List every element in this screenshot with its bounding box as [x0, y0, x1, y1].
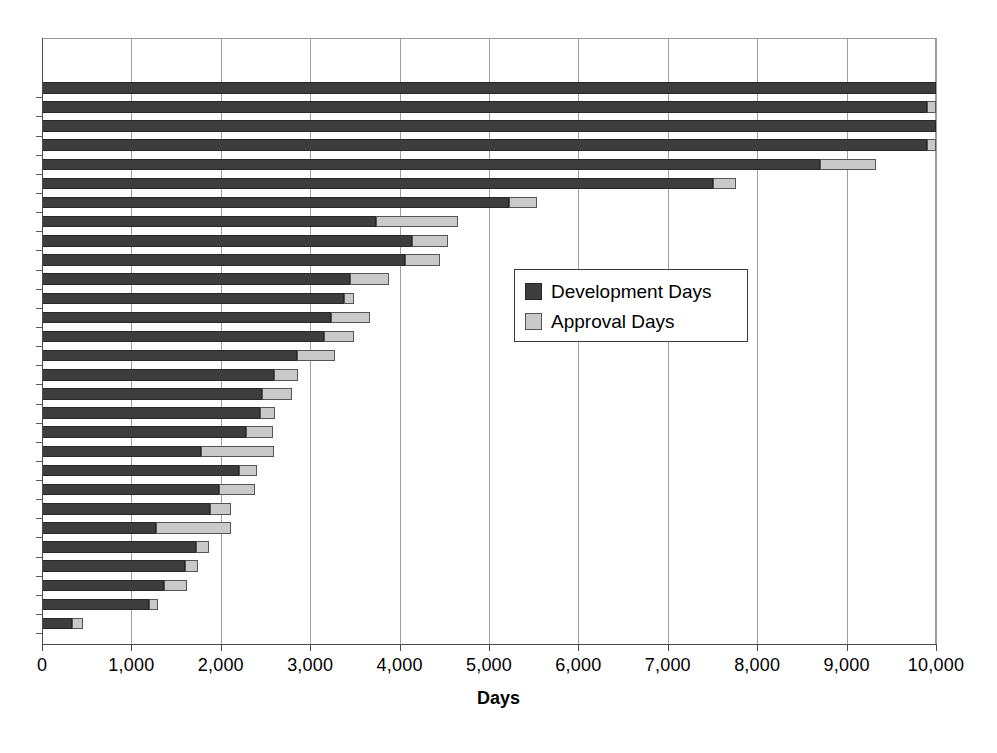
- bar-row: [42, 446, 274, 458]
- bar-segment-development-days: [42, 159, 820, 171]
- bar-segment-development-days: [42, 273, 350, 285]
- light-square-icon: [525, 313, 542, 330]
- bar-segment-development-days: [42, 484, 219, 496]
- bar-segment-approval-days: [196, 541, 209, 553]
- x-axis-tick-label: 1,000: [108, 655, 154, 676]
- bar-row: [42, 254, 440, 266]
- bar-segment-development-days: [42, 82, 936, 94]
- bar-segment-approval-days: [344, 293, 354, 305]
- bar-segment-development-days: [42, 293, 344, 305]
- bar-segment-development-days: [42, 101, 927, 113]
- bar-segment-development-days: [42, 331, 324, 343]
- bar-segment-development-days: [42, 197, 509, 209]
- x-axis-tick: [489, 644, 490, 651]
- x-axis-tick: [847, 644, 848, 651]
- bar-row: [42, 273, 389, 285]
- x-axis-title: Days: [0, 688, 997, 709]
- bar-segment-approval-days: [412, 235, 448, 247]
- bar-segment-development-days: [42, 560, 185, 572]
- bar-row: [42, 178, 736, 190]
- bar-row: [42, 235, 448, 247]
- bar-segment-development-days: [42, 503, 210, 515]
- bar-segment-approval-days: [927, 139, 936, 151]
- x-axis-tick-label: 7,000: [645, 655, 691, 676]
- bar-segment-development-days: [42, 580, 164, 592]
- x-axis-tick-label: 8,000: [734, 655, 780, 676]
- x-axis-tick-label: 3,000: [287, 655, 333, 676]
- bar-row: [42, 331, 354, 343]
- x-axis-tick-label: 6,000: [555, 655, 601, 676]
- bar-row: [42, 197, 537, 209]
- bar-segment-development-days: [42, 388, 262, 400]
- legend-label-approval-days: Approval Days: [551, 312, 675, 331]
- bar-row: [42, 82, 936, 94]
- bar-segment-development-days: [42, 216, 376, 228]
- bar-segment-approval-days: [274, 369, 297, 381]
- bar-segment-approval-days: [149, 599, 158, 611]
- x-axis-tick: [578, 644, 579, 651]
- x-axis-tick: [221, 644, 222, 651]
- legend-label-development-days: Development Days: [551, 282, 712, 301]
- bar-row: [42, 484, 255, 496]
- gridline: [936, 38, 937, 644]
- bar-segment-development-days: [42, 618, 72, 630]
- bar-segment-approval-days: [156, 522, 231, 534]
- bar-row: [42, 522, 231, 534]
- bar-segment-approval-days: [260, 407, 275, 419]
- bar-row: [42, 407, 275, 419]
- bar-segment-approval-days: [331, 312, 370, 324]
- bar-row: [42, 618, 83, 630]
- legend-item-approval-days: Approval Days: [525, 306, 739, 336]
- bar-segment-approval-days: [262, 388, 292, 400]
- bar-row: [42, 159, 876, 171]
- bar-segment-development-days: [42, 407, 260, 419]
- bar-segment-development-days: [42, 139, 927, 151]
- bar-row: [42, 369, 298, 381]
- bar-row: [42, 312, 370, 324]
- x-axis-tick-label: 0: [37, 655, 47, 676]
- bar-segment-development-days: [42, 599, 149, 611]
- bar-segment-development-days: [42, 120, 936, 132]
- bar-segment-development-days: [42, 178, 713, 190]
- bar-row: [42, 503, 231, 515]
- bar-segment-development-days: [42, 541, 196, 553]
- x-axis-tick: [936, 644, 937, 651]
- bar-segment-approval-days: [324, 331, 354, 343]
- bar-segment-approval-days: [350, 273, 389, 285]
- bar-row: [42, 350, 335, 362]
- bar-segment-approval-days: [820, 159, 876, 171]
- x-axis-tick: [131, 644, 132, 651]
- bar-row: [42, 465, 257, 477]
- bar-row: [42, 101, 936, 113]
- legend-item-development-days: Development Days: [525, 276, 739, 306]
- bar-segment-approval-days: [164, 580, 186, 592]
- bar-row: [42, 541, 209, 553]
- bar-segment-development-days: [42, 254, 405, 266]
- bar-segment-approval-days: [201, 446, 274, 458]
- bar-row: [42, 139, 936, 151]
- bar-segment-development-days: [42, 522, 156, 534]
- bar-segment-approval-days: [376, 216, 457, 228]
- x-axis-tick-label: 10,000: [908, 655, 964, 676]
- bar-row: [42, 426, 273, 438]
- dark-square-icon: [525, 283, 542, 300]
- x-axis-tick: [400, 644, 401, 651]
- bar-segment-approval-days: [713, 178, 736, 190]
- bar-segment-approval-days: [72, 618, 84, 630]
- bar-segment-development-days: [42, 235, 412, 247]
- bar-segment-development-days: [42, 465, 239, 477]
- x-axis-tick-label: 9,000: [824, 655, 870, 676]
- bar-row: [42, 293, 354, 305]
- x-axis-tick: [310, 644, 311, 651]
- stacked-bar-chart: 01,0002,0003,0004,0005,0006,0007,0008,00…: [0, 0, 997, 753]
- bar-segment-development-days: [42, 446, 201, 458]
- x-axis-tick-label: 2,000: [198, 655, 244, 676]
- x-axis-tick: [757, 644, 758, 651]
- y-axis-line: [42, 38, 43, 645]
- bar-segment-approval-days: [239, 465, 258, 477]
- x-axis-tick: [668, 644, 669, 651]
- x-axis-tick-label: 5,000: [466, 655, 512, 676]
- bar-segment-approval-days: [246, 426, 273, 438]
- chart-legend: Development Days Approval Days: [514, 269, 748, 342]
- bar-segment-development-days: [42, 312, 331, 324]
